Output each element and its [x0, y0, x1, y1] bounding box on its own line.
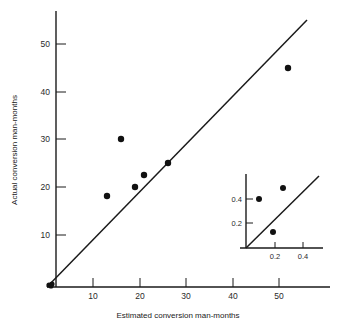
inset-plot: 0.4 0.2 0.2 0.4: [232, 174, 323, 261]
y-axis-ticks: [56, 44, 66, 235]
y-tick-label-40: 40: [41, 87, 51, 97]
identity-reference-line: [47, 20, 307, 287]
inset-x-tick-label-0.2: 0.2: [270, 252, 280, 261]
x-axis-tick-labels: 10 20 30 40 50: [88, 291, 284, 301]
x-axis-title: Estimated conversion man-months: [116, 311, 239, 320]
data-point: [118, 136, 124, 142]
y-tick-label-10: 10: [41, 230, 51, 240]
inset-data-point: [280, 185, 286, 191]
y-tick-label-50: 50: [41, 39, 51, 49]
x-tick-label-50: 50: [274, 291, 284, 301]
x-axis-ticks: [93, 278, 279, 287]
chart-canvas: 50 40 30 20 10 10 20 30 40 50: [0, 0, 344, 328]
inset-y-tick-label-0.4: 0.4: [232, 195, 242, 204]
inset-y-tick-label-0.2: 0.2: [232, 219, 242, 228]
inset-x-axis-tick-labels: 0.2 0.4: [270, 252, 308, 261]
x-tick-label-20: 20: [135, 291, 145, 301]
x-tick-label-40: 40: [228, 291, 238, 301]
scatter-chart-figure: 50 40 30 20 10 10 20 30 40 50: [0, 0, 344, 328]
data-point: [165, 160, 171, 166]
data-point: [104, 193, 110, 199]
inset-x-tick-label-0.4: 0.4: [298, 252, 308, 261]
inset-data-points: [256, 185, 286, 235]
data-point: [285, 65, 291, 71]
y-axis-title: Actual conversion man-months: [10, 95, 19, 205]
inset-data-point: [270, 229, 276, 235]
data-point: [132, 184, 138, 190]
inset-y-axis-ticks: [246, 199, 253, 223]
main-plot: 50 40 30 20 10 10 20 30 40 50: [41, 11, 330, 301]
x-tick-label-10: 10: [88, 291, 98, 301]
data-point: [49, 281, 54, 286]
y-tick-label-20: 20: [41, 182, 51, 192]
inset-y-axis-tick-labels: 0.4 0.2: [232, 195, 242, 228]
inset-data-point: [256, 196, 262, 202]
data-points: [46, 65, 291, 289]
inset-x-axis-ticks: [275, 242, 303, 248]
y-axis-tick-labels: 50 40 30 20 10: [41, 39, 51, 240]
x-tick-label-30: 30: [181, 291, 191, 301]
data-point: [141, 172, 147, 178]
y-tick-label-30: 30: [41, 134, 51, 144]
